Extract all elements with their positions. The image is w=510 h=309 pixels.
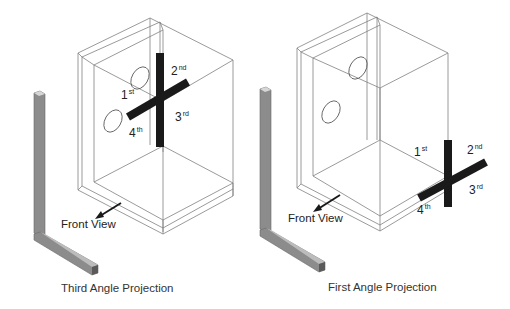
ordinal-1: 1st: [414, 145, 427, 158]
ordinal-2: 2nd: [171, 64, 186, 77]
ordinal-4: 4th: [417, 203, 431, 216]
vertical-plane-bar: [444, 140, 452, 207]
hole-lower: [318, 98, 344, 127]
front-view-label: Front View: [288, 213, 343, 225]
ordinal-2: 2nd: [467, 143, 482, 156]
third-angle-box: [78, 18, 233, 234]
ordinal-4: 4th: [129, 126, 143, 139]
angle-bracket-icon: [260, 87, 325, 272]
ordinal-3: 3rd: [175, 110, 189, 123]
angle-bracket-icon: [34, 91, 98, 275]
panel-caption: First Angle Projection: [328, 282, 437, 294]
front-view-label: Front View: [61, 219, 116, 231]
panel-caption: Third Angle Projection: [61, 283, 174, 295]
hole-lower: [100, 107, 126, 136]
projection-diagram: 1st 2nd 3rd 4th Front View Third Angle P…: [0, 0, 510, 309]
ordinal-3: 3rd: [469, 183, 483, 196]
ordinal-1: 1st: [121, 88, 134, 101]
